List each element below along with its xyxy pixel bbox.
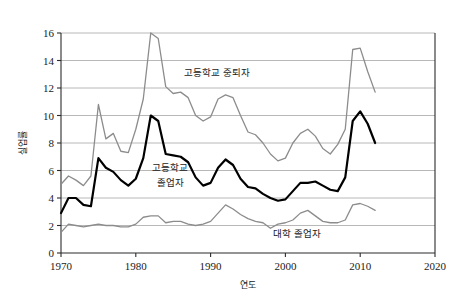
y-axis-tick-label: 0 xyxy=(49,247,55,259)
series-label-dropout: 고등학교 중퇴자 xyxy=(184,67,250,78)
series-label-graduate-line2: 졸업자 xyxy=(157,177,184,188)
y-axis-title: 실업률 xyxy=(18,131,28,155)
x-axis-tick-label: 2010 xyxy=(349,260,372,272)
x-axis-tick-label: 2000 xyxy=(274,260,297,272)
y-axis-tick-label: 16 xyxy=(43,27,55,39)
unemployment-rate-line-chart: 0246810121416 197019801990200020102020 실… xyxy=(0,0,471,303)
chart-background xyxy=(0,0,471,303)
y-axis-tick-label: 8 xyxy=(49,137,55,149)
y-axis-tick-label: 14 xyxy=(43,55,55,67)
x-axis-tick-label: 2020 xyxy=(424,260,447,272)
y-axis-tick-label: 10 xyxy=(43,110,55,122)
x-axis-tick-label: 1980 xyxy=(125,260,148,272)
y-axis-tick-label: 6 xyxy=(49,165,55,177)
x-axis-tick-label: 1990 xyxy=(200,260,223,272)
y-axis-tick-label: 4 xyxy=(49,192,55,204)
x-axis-title: 연도 xyxy=(240,280,256,290)
y-axis-tick-label: 2 xyxy=(49,220,55,232)
series-label-graduate-line1: 고등학교 xyxy=(152,162,188,173)
series-label-college: 대학 졸업자 xyxy=(273,228,321,239)
y-axis-tick-label: 12 xyxy=(43,82,54,94)
x-axis-tick-label: 1970 xyxy=(50,260,73,272)
chart-container: 0246810121416 197019801990200020102020 실… xyxy=(0,0,471,303)
